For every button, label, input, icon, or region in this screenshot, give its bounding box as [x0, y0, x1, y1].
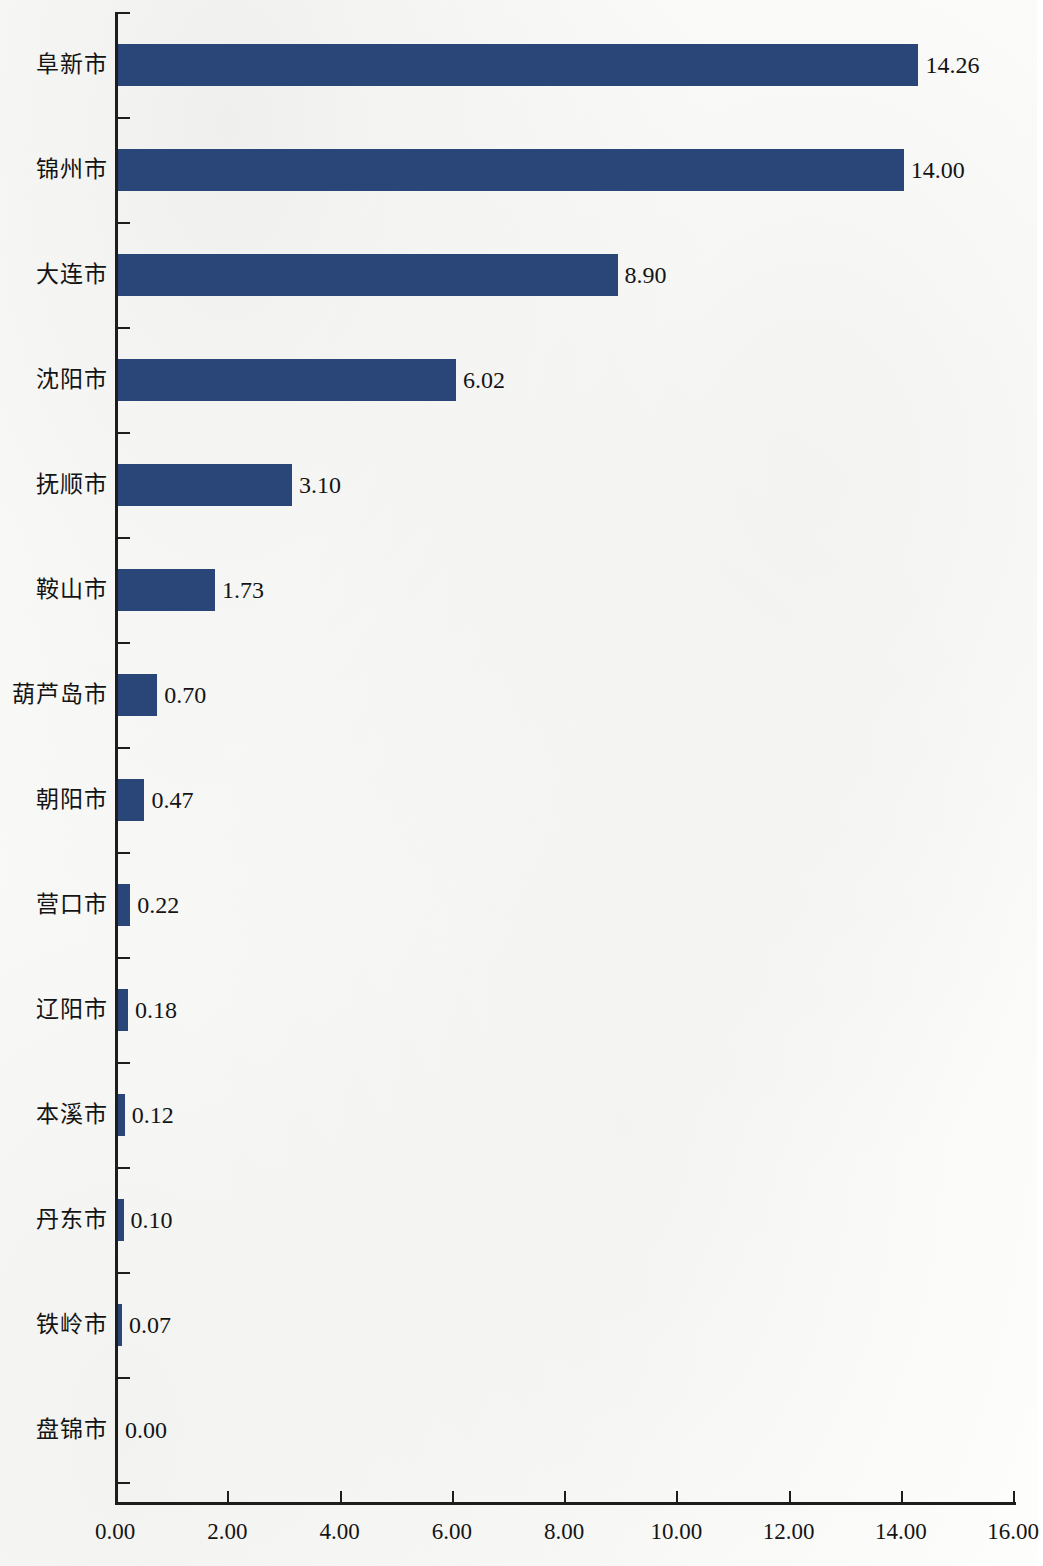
category-label-1: 阜新市: [0, 53, 108, 76]
bar-2: [118, 149, 904, 191]
category-label-12: 丹东市: [0, 1208, 108, 1231]
y-axis-tick: [118, 12, 130, 14]
x-axis-tick-label-0: 0.00: [55, 1520, 175, 1543]
category-label-7: 葫芦岛市: [0, 683, 108, 706]
category-label-8: 朝阳市: [0, 788, 108, 811]
value-label-6: 1.73: [222, 578, 264, 602]
x-axis-tick-label-5: 10.00: [616, 1520, 736, 1543]
x-axis-tick-label-8: 16.00: [953, 1520, 1043, 1543]
value-label-7: 0.70: [164, 683, 206, 707]
value-label-3: 8.90: [625, 263, 667, 287]
value-label-12: 0.10: [131, 1208, 173, 1232]
bar-12: [118, 1199, 124, 1241]
y-axis-tick: [118, 1272, 130, 1274]
y-axis-tick: [118, 222, 130, 224]
bar-6: [118, 569, 215, 611]
bar-7: [118, 674, 157, 716]
x-axis-tick-1: [227, 1491, 229, 1502]
value-label-1: 14.26: [925, 53, 979, 77]
y-axis-tick: [118, 1482, 130, 1484]
category-label-14: 盘锦市: [0, 1418, 108, 1441]
y-axis-tick: [118, 747, 130, 749]
x-axis-tick-3: [452, 1491, 454, 1502]
bar-13: [118, 1304, 122, 1346]
y-axis-tick: [118, 642, 130, 644]
value-label-14: 0.00: [125, 1418, 167, 1442]
bar-4: [118, 359, 456, 401]
bar-8: [118, 779, 144, 821]
bar-11: [118, 1094, 125, 1136]
value-label-2: 14.00: [911, 158, 965, 182]
value-label-13: 0.07: [129, 1313, 171, 1337]
value-label-9: 0.22: [137, 893, 179, 917]
category-label-5: 抚顺市: [0, 473, 108, 496]
value-label-4: 6.02: [463, 368, 505, 392]
value-label-11: 0.12: [132, 1103, 174, 1127]
category-label-6: 鞍山市: [0, 578, 108, 601]
value-label-8: 0.47: [151, 788, 193, 812]
x-axis-tick-7: [901, 1491, 903, 1502]
category-label-10: 辽阳市: [0, 998, 108, 1021]
category-label-11: 本溪市: [0, 1103, 108, 1126]
x-axis-tick-5: [676, 1491, 678, 1502]
y-axis-tick: [118, 1167, 130, 1169]
x-axis-line: [115, 1502, 1016, 1505]
x-axis-tick-label-4: 8.00: [504, 1520, 624, 1543]
y-axis-tick: [118, 537, 130, 539]
y-axis-tick: [118, 1062, 130, 1064]
value-label-5: 3.10: [299, 473, 341, 497]
x-axis-tick-label-6: 12.00: [729, 1520, 849, 1543]
x-axis-tick-label-7: 14.00: [841, 1520, 961, 1543]
value-label-10: 0.18: [135, 998, 177, 1022]
y-axis-line: [115, 12, 118, 1505]
category-label-2: 锦州市: [0, 158, 108, 181]
y-axis-tick: [118, 117, 130, 119]
category-label-13: 铁岭市: [0, 1313, 108, 1336]
bar-1: [118, 44, 918, 86]
x-axis-tick-6: [789, 1491, 791, 1502]
category-label-9: 营口市: [0, 893, 108, 916]
x-axis-tick-8: [1013, 1491, 1015, 1502]
category-label-4: 沈阳市: [0, 368, 108, 391]
bar-5: [118, 464, 292, 506]
category-label-3: 大连市: [0, 263, 108, 286]
y-axis-tick: [118, 432, 130, 434]
x-axis-tick-2: [340, 1491, 342, 1502]
x-axis-tick-label-2: 4.00: [280, 1520, 400, 1543]
y-axis-tick: [118, 327, 130, 329]
y-axis-tick: [118, 957, 130, 959]
bar-3: [118, 254, 618, 296]
x-axis-tick-4: [564, 1491, 566, 1502]
x-axis-tick-0: [115, 1491, 117, 1502]
bar-9: [118, 884, 130, 926]
x-axis-tick-label-3: 6.00: [392, 1520, 512, 1543]
y-axis-tick: [118, 852, 130, 854]
bar-10: [118, 989, 128, 1031]
x-axis-tick-label-1: 2.00: [167, 1520, 287, 1543]
y-axis-tick: [118, 1377, 130, 1379]
